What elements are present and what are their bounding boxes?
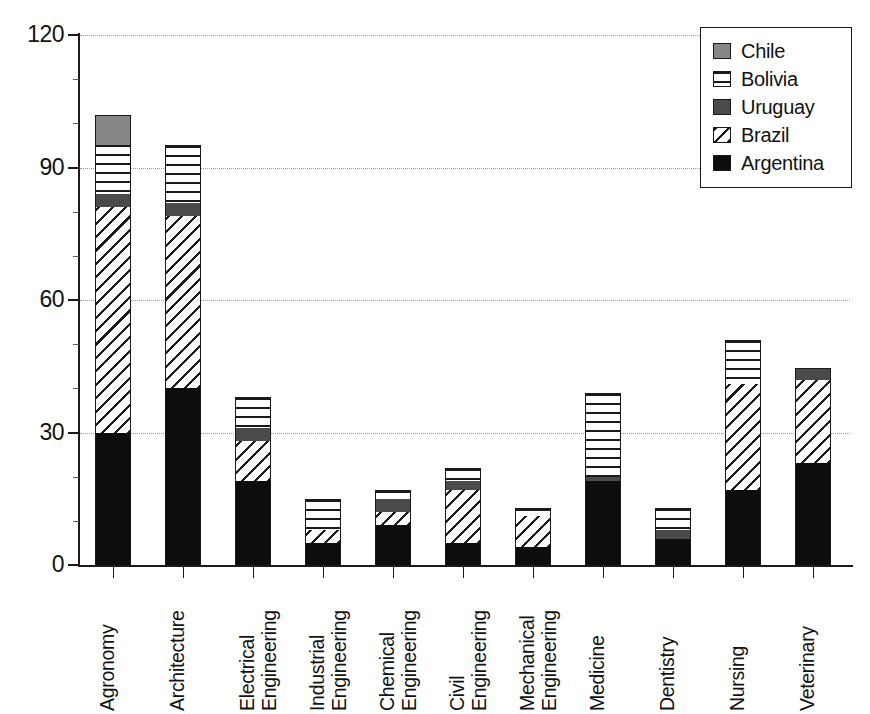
legend-item[interactable]: Chile: [713, 37, 841, 65]
bar-segment-uruguay: [235, 428, 271, 441]
bar-segment-uruguay: [165, 203, 201, 216]
bar-segment-bolivia: [445, 468, 481, 481]
bar-segment-argentina: [725, 490, 761, 565]
bar-segment-bolivia: [515, 508, 551, 517]
bar-segment-bolivia: [375, 490, 411, 499]
bar-segment-bolivia: [655, 508, 691, 530]
bar-stack: [795, 368, 831, 565]
x-axis-tick: [673, 567, 674, 578]
legend-label: Argentina: [741, 153, 824, 173]
legend-item[interactable]: Argentina: [713, 149, 841, 177]
bar-segment-bolivia: [235, 397, 271, 428]
legend-label: Chile: [741, 41, 785, 61]
stacked-bar-chart: 0306090120 AgronomyArchitectureElectrica…: [0, 0, 870, 714]
x-axis-tick-label: Dentistry: [657, 583, 677, 711]
x-axis-tick: [393, 567, 394, 578]
bar-segment-argentina: [305, 543, 341, 565]
bar-segment-chile: [95, 115, 131, 146]
x-axis-tick-label: Chemical: [377, 583, 397, 711]
x-axis-tick: [463, 567, 464, 578]
x-axis-tick-label: Veterinary: [797, 583, 817, 711]
bar-segment-uruguay: [95, 194, 131, 207]
bar-segment-bolivia: [165, 145, 201, 202]
x-axis-tick-label: Nursing: [727, 583, 747, 711]
x-axis-tick: [183, 567, 184, 578]
x-axis-tick-label: Industrial: [307, 583, 327, 711]
x-axis-tick-label: Civil: [447, 583, 467, 711]
bar-segment-brazil: [305, 530, 341, 543]
bar-segment-uruguay: [445, 481, 481, 490]
bar-segment-uruguay: [585, 477, 621, 481]
bar-stack: [515, 508, 551, 565]
bar-segment-argentina: [95, 433, 131, 566]
bar-segment-argentina: [515, 547, 551, 565]
bar-stack: [585, 393, 621, 565]
x-axis-tick: [113, 567, 114, 578]
legend-swatch-icon: [713, 71, 731, 87]
bar-stack: [375, 490, 411, 565]
y-axis-tick-label: 90: [0, 156, 64, 179]
x-axis-tick-label: Agronomy: [97, 583, 117, 711]
bar-segment-bolivia: [725, 340, 761, 384]
legend-item[interactable]: Bolivia: [713, 65, 841, 93]
bar-segment-brazil: [95, 207, 131, 432]
legend-swatch-icon: [713, 43, 731, 59]
bar-segment-argentina: [795, 463, 831, 565]
bar-segment-argentina: [165, 388, 201, 565]
bar-segment-uruguay: [375, 499, 411, 512]
bar-stack: [95, 115, 131, 565]
x-axis-tick-label: Mechanical: [517, 583, 537, 711]
x-axis-tick: [253, 567, 254, 578]
bar-stack: [165, 145, 201, 565]
bar-stack: [235, 397, 271, 565]
x-axis-tick: [743, 567, 744, 578]
bar-segment-brazil: [725, 384, 761, 490]
x-axis-tick-label: Engineering: [539, 583, 559, 711]
bar-segment-brazil: [165, 216, 201, 388]
x-axis-tick-label: Engineering: [259, 583, 279, 711]
bar-stack: [725, 340, 761, 565]
x-axis-tick-label: Engineering: [469, 583, 489, 711]
legend-swatch-icon: [713, 127, 731, 143]
x-axis-tick: [323, 567, 324, 578]
y-axis-tick-label: 60: [0, 288, 64, 311]
bar-segment-brazil: [795, 380, 831, 464]
x-axis-tick: [533, 567, 534, 578]
x-axis-tick-label: Medicine: [587, 583, 607, 711]
legend-item[interactable]: Uruguay: [713, 93, 841, 121]
bar-segment-argentina: [375, 525, 411, 565]
bar-segment-argentina: [445, 543, 481, 565]
x-axis-tick-label: Electrical: [237, 583, 257, 711]
x-axis-tick-label: Engineering: [329, 583, 349, 711]
x-axis-tick: [603, 567, 604, 578]
bar-stack: [445, 468, 481, 565]
x-axis-tick-label: Engineering: [399, 583, 419, 711]
bar-segment-uruguay: [655, 530, 691, 539]
bar-segment-bolivia: [305, 499, 341, 530]
bar-segment-bolivia: [585, 393, 621, 477]
bar-segment-brazil: [375, 512, 411, 525]
bar-stack: [305, 499, 341, 565]
x-axis-line: [78, 565, 853, 567]
legend-item[interactable]: Brazil: [713, 121, 841, 149]
bar-segment-argentina: [585, 481, 621, 565]
legend-swatch-icon: [713, 155, 731, 171]
bar-segment-brazil: [235, 441, 271, 481]
legend-label: Brazil: [741, 125, 789, 145]
legend-label: Uruguay: [741, 97, 815, 117]
bar-segment-uruguay: [795, 368, 831, 379]
y-axis-tick-label: 120: [0, 23, 64, 46]
y-axis-tick-label: 0: [0, 553, 64, 576]
bar-segment-brazil: [445, 490, 481, 543]
legend-label: Bolivia: [741, 69, 798, 89]
bar-stack: [655, 508, 691, 565]
bar-segment-argentina: [235, 481, 271, 565]
legend: ChileBoliviaUruguayBrazilArgentina: [700, 27, 852, 188]
bar-segment-brazil: [515, 516, 551, 547]
x-axis-tick-label: Architecture: [167, 583, 187, 711]
x-axis-tick: [813, 567, 814, 578]
bar-segment-bolivia: [95, 145, 131, 194]
bar-segment-argentina: [655, 539, 691, 566]
y-axis-tick-label: 30: [0, 421, 64, 444]
legend-swatch-icon: [713, 99, 731, 115]
